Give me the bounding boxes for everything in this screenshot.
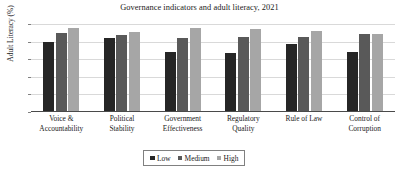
bar	[68, 28, 79, 112]
bar-group	[334, 24, 395, 112]
bar	[116, 35, 127, 112]
legend-swatch-icon	[150, 156, 155, 161]
legend-swatch-icon	[178, 156, 183, 161]
bar-chart: Governance indicators and adult literacy…	[0, 0, 399, 188]
bar	[165, 52, 176, 112]
legend-label: Medium	[185, 154, 210, 163]
category-label-line: Regulatory	[213, 114, 274, 124]
y-axis-label: Adult Literacy (%)	[6, 0, 15, 75]
bar	[359, 34, 370, 112]
bar-group	[31, 24, 92, 112]
bar	[372, 34, 383, 112]
x-axis-line	[31, 111, 395, 112]
category-label-line: Corruption	[334, 124, 395, 134]
plot-area	[31, 24, 395, 112]
chart-title: Governance indicators and adult literacy…	[0, 3, 399, 12]
legend-item[interactable]: Medium	[178, 154, 210, 163]
x-axis-category-labels: Voice &AccountabilityPoliticalStabilityG…	[31, 114, 395, 142]
category-label-line: Government	[152, 114, 213, 124]
bar	[190, 28, 201, 112]
category-label-line: Accountability	[31, 124, 92, 134]
category-label-line: Rule of Law	[274, 114, 335, 124]
legend-label: Low	[157, 154, 171, 163]
bar	[298, 37, 309, 112]
category-label-line: Effectiveness	[152, 124, 213, 134]
category-label-line: Voice &	[31, 114, 92, 124]
bar	[56, 33, 67, 112]
bar	[225, 53, 236, 112]
category-label: Rule of Law	[274, 114, 335, 124]
bar	[347, 52, 358, 112]
legend-swatch-icon	[217, 156, 222, 161]
bar-group	[92, 24, 153, 112]
bar	[238, 37, 249, 112]
bar	[286, 44, 297, 112]
bar-group	[274, 24, 335, 112]
category-label-line: Stability	[92, 124, 153, 134]
bar	[177, 38, 188, 112]
category-label: GovernmentEffectiveness	[152, 114, 213, 133]
bar	[43, 42, 54, 112]
category-label: Voice &Accountability	[31, 114, 92, 133]
bar	[104, 38, 115, 112]
bar	[250, 29, 261, 112]
legend-item[interactable]: Low	[150, 154, 171, 163]
category-label-line: Control of	[334, 114, 395, 124]
bar-group	[152, 24, 213, 112]
category-label-line: Quality	[213, 124, 274, 134]
chart-legend: LowMediumHigh	[143, 150, 245, 166]
bar	[311, 31, 322, 112]
category-label-line: Political	[92, 114, 153, 124]
legend-label: High	[224, 154, 239, 163]
legend-item[interactable]: High	[217, 154, 239, 163]
bar-group	[213, 24, 274, 112]
bar	[129, 32, 140, 112]
bars-layer	[31, 24, 395, 112]
category-label: PoliticalStability	[92, 114, 153, 133]
category-label: RegulatoryQuality	[213, 114, 274, 133]
category-label: Control ofCorruption	[334, 114, 395, 133]
